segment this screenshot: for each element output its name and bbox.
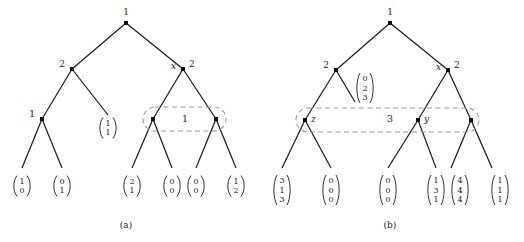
panel-a-vector-leaf-1-right-paren [27,176,30,197]
panel-b-vector-0-2-3-internal-right-paren [370,73,373,103]
panel-a-label-left-1: 1 [29,109,35,119]
panel-a-vector-leaf-6-entry-0: 1 [233,177,238,186]
panel-a-edge-3 [72,69,108,115]
panel-a-vector-leaf-2-entry-1: 1 [59,186,64,195]
panel-a-vector-1-1-internal-right-paren [113,118,116,139]
panel-a-vector-leaf-5-right-paren [201,176,204,197]
panel-a-node-group-right [214,117,218,121]
panel-b-group-label: 3 [387,113,393,124]
panel-b-vector-leaf-4-entry-1: 3 [433,186,438,195]
panel-b-vector-leaf-5-entry-0: 4 [457,176,462,185]
panel-a-vector-1-1-internal-entry-0: 1 [105,119,110,128]
panel-a-label-left-2: 2 [59,59,65,69]
panel-a-vector-leaf-4-entry-0: 0 [169,177,174,186]
panel-b-vector-leaf-3-left-paren [380,175,383,205]
panel-a-group-label: 1 [182,113,188,124]
panel-b-vector-0-2-3-internal-entry-1: 2 [362,84,367,93]
panel-a-vector-leaf-6-left-paren [228,176,231,197]
panel-a-vector-leaf-2-entry-0: 0 [59,177,64,186]
panel-b-vector-leaf-5-right-paren [465,175,468,205]
panel-b-vector-leaf-2: 000 [323,175,339,205]
panel-b-vector-leaf-6-entry-0: 1 [497,176,502,185]
panel-a-vector-leaf-3-entry-1: 1 [129,186,134,195]
panel-b-vector-leaf-4-entry-2: 1 [433,195,438,204]
panel-a-node-left-1 [40,117,44,121]
panel-b-vector-leaf-5: 444 [452,175,468,205]
panel-b-vector-0-2-3-internal: 023 [357,73,373,103]
panel-a-edge-9 [153,119,172,168]
panel-b-node-node-y [416,118,420,122]
panel-b-vector-leaf-5-left-paren [452,175,455,205]
panel-a-vector-1-1-internal: 11 [100,118,116,139]
panel-b-vector-0-2-3-internal-entry-2: 3 [362,93,367,102]
panel-b-vector-leaf-6-entry-1: 1 [497,186,502,195]
panel-b-vector-leaf-5-entry-2: 4 [457,195,462,204]
panel-b-edge-7 [305,120,331,168]
panel-a-caption: (a) [120,220,132,230]
panel-a-edge-0 [72,23,126,69]
panel-a-vector-leaf-3-right-paren [137,176,140,197]
panel-b-edge-6 [282,120,305,168]
tree-diagram-figure: 1122x111100121000012(a)3122xzy0233130000… [0,0,524,242]
panel-b-caption: (b) [384,220,397,230]
panel-b-node-right-2-x [446,68,450,72]
panel-b-vector-leaf-1-left-paren [274,175,277,205]
panel-b-vector-leaf-1: 313 [274,175,290,205]
panel-b-label-root: 1 [387,7,393,17]
panel-b-node-node-z [303,118,307,122]
panel-a-vector-leaf-1-entry-0: 1 [19,177,24,186]
panel-a-node-left-2 [70,67,74,71]
panel-a-vector-leaf-2-right-paren [67,176,70,197]
panel-b-vector-0-2-3-internal-left-paren [357,73,360,103]
panel-b-edge-0 [336,23,390,70]
panel-a-vector-leaf-4-left-paren [164,176,167,197]
panel-b-vector-leaf-2-entry-1: 0 [328,186,333,195]
panel-a-label-right-2: 2 [189,59,195,69]
panel-b-vector-leaf-6-left-paren [492,175,495,205]
panel-b-vector-leaf-6-right-paren [505,175,508,205]
panel-b-edge-3 [336,70,355,102]
panel-a-vector-leaf-6-entry-1: 2 [233,186,238,195]
panel-a-vector-leaf-5-left-paren [188,176,191,197]
panel-a-vector-leaf-2: 01 [54,176,70,197]
panel-a-edge-8 [132,119,153,168]
panel-b-vector-leaf-2-entry-0: 0 [328,176,333,185]
panel-a-vector-leaf-3-entry-0: 2 [129,177,134,186]
panel-a-vector-leaf-1-entry-1: 0 [19,186,24,195]
panel-a-node-root [124,21,128,25]
panel-a-vector-leaf-4: 00 [164,176,180,197]
panel-a-label-right-2-x: x [171,61,176,71]
panel-a-vector-leaf-5-entry-0: 0 [193,177,198,186]
panel-b-vector-leaf-3-right-paren [393,175,396,205]
panel-a-node-right-2-x [181,67,185,71]
panel-a-edge-4 [153,69,183,119]
panel-b-node-left-2 [334,68,338,72]
panel-b-vector-leaf-6: 111 [492,175,508,205]
panel-a-edge-10 [196,119,216,168]
panel-b-vector-0-2-3-internal-entry-0: 0 [362,74,367,83]
panel-b-vector-leaf-4-entry-0: 1 [433,176,438,185]
panel-b-edge-2 [305,70,336,120]
panel-a-edge-5 [183,69,216,119]
panel-a-vector-leaf-3-left-paren [124,176,127,197]
panel-b-vector-leaf-3-entry-1: 0 [385,186,390,195]
panel-a-vector-leaf-3: 21 [124,176,140,197]
panel-b-vector-leaf-1-entry-1: 1 [279,186,284,195]
panel-b-edge-8 [388,120,418,168]
panel-a-vector-leaf-1: 10 [14,176,30,197]
panel-b-vector-leaf-3-entry-2: 0 [385,195,390,204]
panel-a-vector-leaf-2-left-paren [54,176,57,197]
panel-a-node-group-left [151,117,155,121]
panel-b-vector-leaf-4-right-paren [441,175,444,205]
panel-b-edge-10 [451,120,471,168]
panel-b-vector-leaf-1-entry-2: 3 [279,195,284,204]
panel-b-vector-leaf-2-entry-2: 0 [328,195,333,204]
panel-a-vector-leaf-1-left-paren [14,176,17,197]
panel-b-vector-leaf-2-left-paren [323,175,326,205]
panel-b-vector-leaf-1-entry-0: 3 [279,176,284,185]
panel-b-vector-leaf-2-right-paren [336,175,339,205]
panel-b-edge-11 [471,120,492,168]
panel-a-vector-1-1-internal-entry-1: 1 [105,128,110,137]
panel-b-label-node-z: z [310,114,316,124]
panel-a-edge-11 [216,119,236,168]
